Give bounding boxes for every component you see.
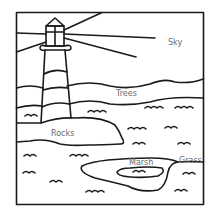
label-trees: Trees [115, 89, 137, 98]
light-beams [17, 13, 156, 58]
label-marsh: Marsh [129, 158, 153, 167]
trees-band [17, 79, 204, 108]
water-waves [23, 107, 195, 193]
lighthouse-illustration: Sky Trees Rocks Marsh Grass [0, 0, 217, 214]
label-grass: Grass [179, 156, 202, 165]
label-rocks: Rocks [51, 129, 74, 138]
label-sky: Sky [168, 38, 182, 47]
